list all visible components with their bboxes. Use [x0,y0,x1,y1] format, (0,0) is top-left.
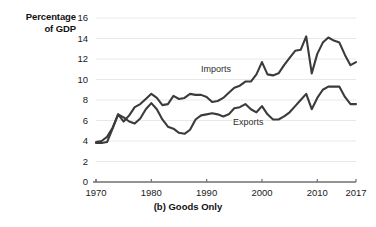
x-axis-tick-label: 2010 [300,187,334,198]
x-axis-tick-label: 2017 [339,187,373,198]
y-axis-tick-label: 12 [66,54,88,64]
series-label-imports: Imports [200,64,232,74]
y-axis-tick-label: 8 [66,95,88,105]
y-axis-tick-label: 14 [66,34,88,44]
x-axis-tick-label: 1990 [190,187,224,198]
x-axis-tick-label: 1980 [134,187,168,198]
x-axis-tick-label: 2000 [245,187,279,198]
y-axis-tick-label: 0 [66,177,88,187]
chart-figure: Percentage of GDP (b) Goods Only 0246810… [0,0,376,227]
y-axis-tick-label: 6 [66,116,88,126]
figure-caption: (b) Goods Only [0,201,376,212]
y-axis-tick-label: 4 [66,136,88,146]
y-axis-tick-label: 2 [66,157,88,167]
y-axis-tick-label: 10 [66,75,88,85]
series-label-exports: Exports [232,117,265,127]
series-line-imports [96,36,356,142]
x-axis-tick-label: 1970 [79,187,113,198]
y-axis-tick-label: 16 [66,13,88,23]
